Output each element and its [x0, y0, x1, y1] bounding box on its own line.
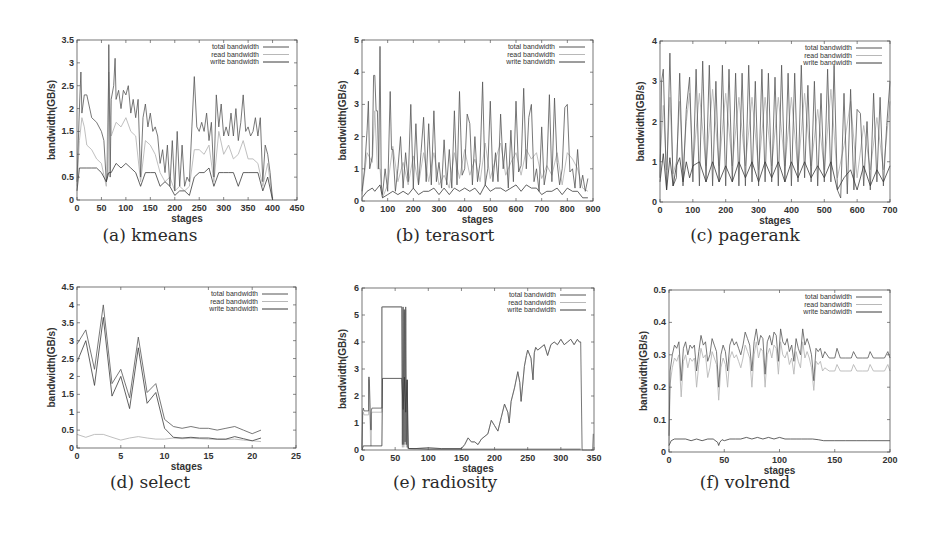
x-tick-label: 100 [772, 455, 787, 465]
legend: total bandwidthread bandwidthwrite bandw… [802, 293, 882, 315]
legend-label: read bandwidth [804, 301, 852, 308]
y-tick-label: 0.2 [653, 382, 666, 392]
legend-label: write bandwidth [802, 308, 852, 315]
y-tick-label: 0.3 [653, 350, 666, 360]
y-axis-label: bandwidth(GB/s) [638, 331, 649, 411]
x-tick-label: 50 [719, 455, 729, 465]
y-tick-label: 0.4 [653, 317, 666, 327]
y-tick-label: 0.5 [653, 285, 666, 295]
y-tick-label: 0 [661, 447, 666, 457]
x-tick-label: 0 [666, 455, 671, 465]
x-tick-label: 200 [882, 455, 897, 465]
caption-volrend: (f) volrend [700, 472, 790, 492]
chart-volrend: 05010015020000.10.20.30.40.5stagesbandwi… [0, 0, 928, 546]
series-write-bandwidth [669, 437, 890, 445]
series-total-bandwidth [669, 329, 890, 436]
legend-label: total bandwidth [805, 293, 852, 300]
y-tick-label: 0.1 [653, 415, 666, 425]
x-tick-label: 150 [827, 455, 842, 465]
